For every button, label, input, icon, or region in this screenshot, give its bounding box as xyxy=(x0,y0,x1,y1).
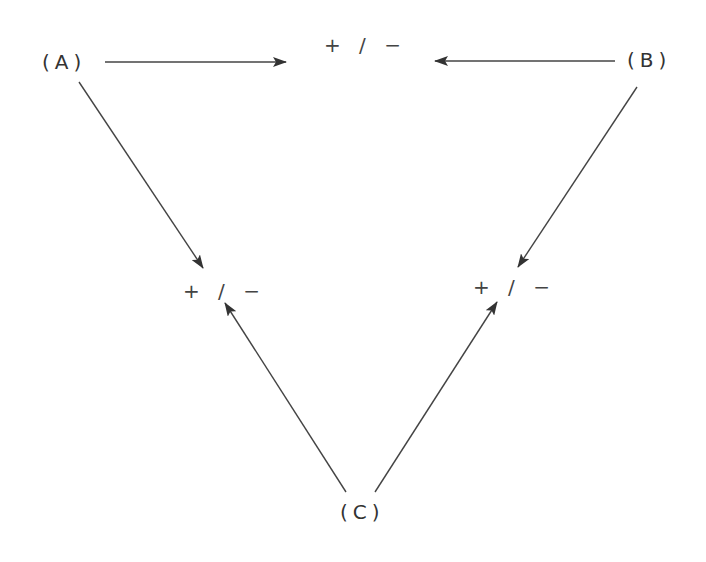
arrow-b-to-right xyxy=(518,87,637,267)
arrow-a-to-left xyxy=(79,82,203,268)
node-a: (A) xyxy=(42,52,86,72)
effect-top: + / − xyxy=(324,35,407,55)
diagram-canvas xyxy=(0,0,706,562)
arrow-c-to-left xyxy=(225,303,346,492)
effect-right: + / − xyxy=(473,277,556,297)
node-b: (B) xyxy=(627,50,671,70)
effect-left: + / − xyxy=(183,281,266,301)
causal-diagram: (A) (B) (C) + / − + / − + / − xyxy=(0,0,706,562)
node-c: (C) xyxy=(340,502,385,522)
arrow-c-to-right xyxy=(375,302,497,492)
